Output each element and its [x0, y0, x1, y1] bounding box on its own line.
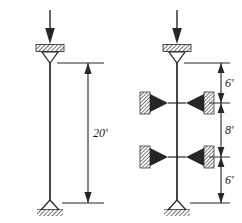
top-pin-support-unbraced — [42, 52, 58, 63]
hatched-block-icon — [140, 92, 150, 114]
arrow-up-icon-head — [218, 103, 225, 113]
triangle-pin-icon — [168, 200, 186, 210]
arrow-down-icon-head — [45, 28, 55, 44]
arrow-down-icon-head — [84, 192, 91, 203]
dimension-6-bottom-group: 6' — [218, 157, 234, 203]
dimension-label-20: 20' — [93, 126, 108, 140]
brace-wedge-right — [186, 94, 204, 112]
ground-hatch-icon — [164, 210, 190, 216]
top-pin-support-braced — [169, 52, 185, 63]
dimension-20-group: 20' — [84, 63, 108, 203]
arrow-down-icon-head — [218, 93, 225, 103]
arrow-up-icon-head — [218, 157, 225, 167]
top-cap-plate-braced — [163, 45, 191, 52]
dimension-label-6-top: 6' — [225, 76, 234, 90]
load-arrow-unbraced — [45, 10, 55, 44]
brace-wedge-left — [150, 148, 168, 166]
dimension-6-top-group: 6' — [218, 63, 234, 103]
arrow-down-icon-head — [218, 193, 225, 203]
bottom-pin-support-braced — [164, 200, 190, 216]
bottom-pin-support-unbraced — [37, 200, 63, 216]
arrow-up-icon-head — [218, 63, 225, 73]
dimension-label-8-mid: 8' — [225, 123, 234, 137]
unbraced-column-group: 20' — [36, 10, 108, 216]
hatched-block-icon — [140, 146, 150, 168]
arrow-down-icon-head — [218, 147, 225, 157]
brace-wedge-right — [186, 148, 204, 166]
triangle-pin-icon — [41, 200, 59, 210]
dimension-label-6-bottom: 6' — [225, 173, 234, 187]
top-cap-plate-unbraced — [36, 45, 64, 52]
arrow-down-icon-head — [172, 28, 182, 44]
brace-wedge-left — [150, 94, 168, 112]
ground-hatch-icon — [37, 210, 63, 216]
load-arrow-braced — [172, 10, 182, 44]
triangle-pin-icon — [42, 52, 58, 63]
braced-column-group: 6' 8' 6' — [140, 10, 234, 216]
dimension-8-mid-group: 8' — [218, 103, 234, 157]
arrow-up-icon-head — [84, 63, 91, 74]
column-bracing-figure: 20' — [0, 0, 242, 223]
figure-canvas: 20' — [0, 0, 242, 223]
hatch-icon — [36, 45, 64, 52]
